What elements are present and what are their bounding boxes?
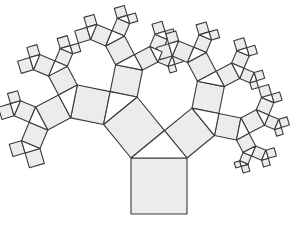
tree-square <box>131 158 187 214</box>
pythagoras-tree-diagram <box>0 0 290 231</box>
tree-shapes <box>0 5 289 214</box>
